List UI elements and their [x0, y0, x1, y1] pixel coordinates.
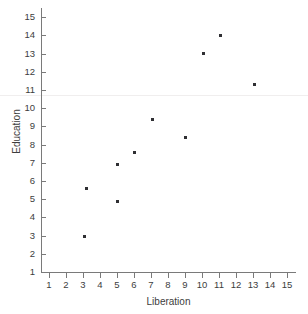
reference-line	[0, 95, 308, 96]
y-tick-label: 1	[13, 267, 35, 277]
y-tick-label: 3	[13, 231, 35, 241]
x-tick	[49, 273, 50, 278]
x-tick	[219, 273, 220, 278]
x-tick	[134, 273, 135, 278]
y-tick	[41, 72, 46, 73]
y-tick	[41, 145, 46, 146]
y-axis-title: Education	[11, 72, 22, 192]
x-tick	[287, 273, 288, 278]
y-tick-label: 14	[13, 30, 35, 40]
x-tick	[83, 273, 84, 278]
y-tick-label: 4	[13, 212, 35, 222]
y-tick	[41, 108, 46, 109]
x-tick	[202, 273, 203, 278]
y-tick	[41, 272, 46, 273]
data-point	[133, 151, 136, 154]
data-point	[116, 163, 119, 166]
x-tick	[168, 273, 169, 278]
y-tick-label: 5	[13, 194, 35, 204]
data-point	[83, 235, 86, 238]
y-tick	[41, 35, 46, 36]
x-tick-label: 15	[277, 280, 297, 290]
x-tick	[253, 273, 254, 278]
data-point	[253, 83, 256, 86]
y-tick-label: 2	[13, 249, 35, 259]
y-tick	[41, 181, 46, 182]
data-point	[116, 200, 119, 203]
x-axis-title: Liberation	[41, 296, 296, 307]
y-tick	[41, 126, 46, 127]
data-point	[219, 34, 222, 37]
scatter-chart: 123456789101112131415 123456789101112131…	[0, 0, 308, 314]
y-tick-label: 15	[13, 12, 35, 22]
y-tick-label: 13	[13, 49, 35, 59]
x-tick	[100, 273, 101, 278]
y-tick	[41, 17, 46, 18]
x-tick	[66, 273, 67, 278]
x-tick	[185, 273, 186, 278]
y-axis-line	[41, 8, 42, 273]
data-point	[151, 118, 154, 121]
y-tick	[41, 199, 46, 200]
x-tick	[236, 273, 237, 278]
y-tick	[41, 54, 46, 55]
y-tick	[41, 254, 46, 255]
data-point	[184, 136, 187, 139]
y-tick	[41, 90, 46, 91]
x-tick	[270, 273, 271, 278]
x-tick	[117, 273, 118, 278]
data-point	[202, 52, 205, 55]
y-tick	[41, 163, 46, 164]
y-tick	[41, 236, 46, 237]
data-point	[85, 187, 88, 190]
x-tick	[151, 273, 152, 278]
y-tick	[41, 217, 46, 218]
